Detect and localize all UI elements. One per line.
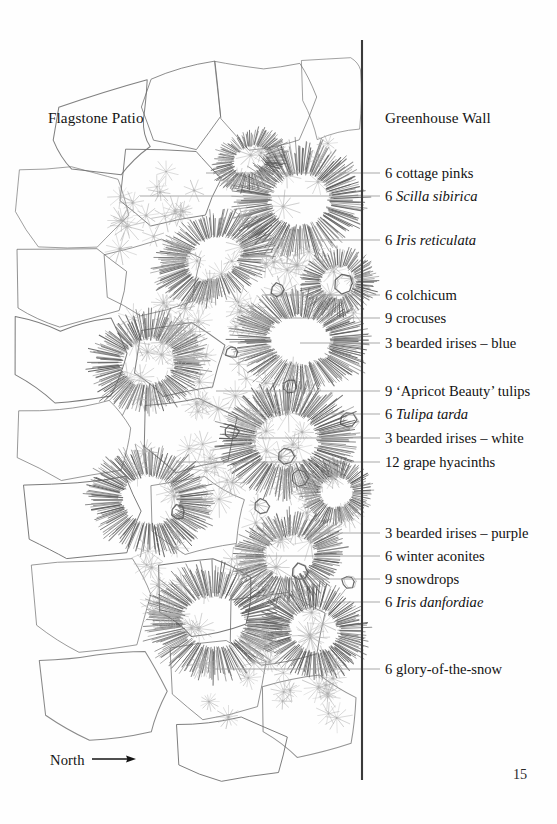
bearded-iris-clump: [220, 277, 377, 404]
plant-count: 3: [385, 430, 396, 446]
flower-ray: [328, 143, 338, 144]
flower-ray: [252, 307, 265, 308]
bulb-flower-symbol: [240, 669, 261, 690]
plant-count: 9: [385, 571, 396, 587]
plant-count: 9: [385, 383, 396, 399]
flagstone-outline: [17, 249, 127, 327]
plant-common-name: winter aconites: [396, 548, 485, 564]
plant-scientific-name: Iris reticulata: [396, 232, 476, 248]
flagstone-outline: [31, 559, 151, 653]
flower-ray: [126, 308, 133, 318]
bulb-flower-symbol: [108, 187, 134, 209]
greenhouse-wall-label: Greenhouse Wall: [385, 110, 491, 125]
flower-ray: [336, 659, 350, 665]
flower-ray: [290, 690, 301, 691]
flower-ray: [155, 216, 165, 229]
flower-ray: [272, 700, 282, 701]
bulb-flower-symbol: [184, 613, 214, 644]
flower-ray: [252, 451, 267, 457]
plant-label: 6 Iris danfordiae: [385, 595, 483, 610]
plant-common-name: colchicum: [396, 287, 457, 303]
flower-ray: [128, 368, 134, 378]
plant-count: 6: [385, 188, 396, 204]
flower-ray: [147, 187, 157, 188]
plant-common-name: bearded irises – white: [396, 430, 524, 446]
flagstone-patio-label: Flagstone Patio: [48, 110, 144, 125]
flower-ray: [209, 266, 221, 274]
plant-label: 6 Iris reticulata: [385, 233, 476, 248]
flower-ray: [288, 413, 299, 426]
flower-ray: [140, 365, 141, 378]
page-number: 15: [513, 766, 527, 783]
flower-ray: [266, 449, 279, 450]
flower-ray: [157, 176, 165, 186]
flagstone-outline: [301, 58, 361, 140]
flower-ray: [161, 496, 174, 502]
flower-ray: [219, 482, 227, 499]
flower-ray: [302, 680, 318, 687]
flower-ray: [199, 623, 214, 629]
flower-ray: [118, 313, 133, 318]
flower-ray: [275, 632, 276, 643]
bulb-flower-symbol: [269, 190, 301, 220]
flagstone-outline: [141, 61, 220, 150]
plant-label: 6 glory-of-the-snow: [385, 662, 502, 677]
flower-ray: [337, 718, 338, 733]
flower-ray: [189, 434, 191, 449]
bulb-flower-symbol: [108, 208, 137, 236]
flower-ray: [349, 516, 350, 532]
plant-label: 3 bearded irises – purple: [385, 526, 528, 541]
flower-ray: [283, 190, 285, 207]
flower-ray: [215, 263, 222, 274]
flower-ray: [292, 357, 293, 372]
plant-count: 6: [385, 661, 396, 677]
plant-common-name: ‘Apricot Beauty’ tulips: [396, 383, 530, 399]
iris-leaf-stroke: [142, 388, 156, 416]
flower-ray: [276, 553, 277, 568]
flower-ray: [162, 203, 165, 216]
flower-ray: [151, 302, 163, 303]
flagstone-outline: [15, 167, 128, 248]
flower-ray: [323, 624, 324, 637]
plant-label: 3 bearded irises – white: [385, 431, 524, 446]
flower-ray: [166, 172, 167, 185]
flower-ray: [165, 216, 168, 232]
flagstone-outline: [53, 80, 150, 175]
flower-ray: [199, 613, 202, 628]
plant-label: 6 cottage pinks: [385, 166, 473, 181]
flower-ray: [150, 585, 158, 589]
plant-count: 6: [385, 548, 396, 564]
flower-ray: [142, 205, 146, 215]
plant-scientific-name: Iris danfordiae: [396, 594, 483, 610]
flower-ray: [287, 175, 301, 178]
plant-label: 6 Scilla sibirica: [385, 189, 477, 204]
flower-ray: [188, 261, 198, 264]
plant-label: 3 bearded irises – blue: [385, 336, 516, 351]
plant-count: 6: [385, 406, 396, 422]
plant-label: 9 ‘Apricot Beauty’ tulips: [385, 384, 530, 399]
plant-common-name: cottage pinks: [396, 165, 473, 181]
flower-ray: [232, 551, 242, 559]
flower-ray: [226, 312, 239, 317]
flower-ray: [150, 181, 157, 187]
plant-count: 12: [385, 454, 403, 470]
flower-ray: [308, 623, 322, 624]
plant-count: 9: [385, 310, 396, 326]
flower-ray: [235, 396, 242, 407]
bulb-flower-symbol: [177, 434, 203, 464]
flower-ray: [302, 432, 312, 438]
bulb-flower-symbol: [105, 233, 136, 265]
flower-ray: [157, 187, 158, 197]
plant-label: 9 crocuses: [385, 311, 446, 326]
plant-label: 6 Tulipa tarda: [385, 407, 468, 422]
flower-ray: [232, 261, 241, 262]
flower-ray: [171, 314, 172, 326]
flower-ray: [166, 357, 175, 363]
flower-ray: [209, 702, 218, 707]
plant-common-name: grape hyacinths: [403, 454, 495, 470]
plant-common-name: bearded irises – purple: [396, 525, 529, 541]
plant-common-name: snowdrops: [396, 571, 459, 587]
flower-ray: [232, 364, 239, 371]
plant-common-name: bearded irises – blue: [396, 335, 516, 351]
plant-common-name: crocuses: [396, 310, 446, 326]
